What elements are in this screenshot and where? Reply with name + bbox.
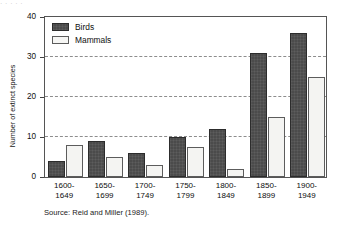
bar-group [128,17,164,177]
bar-birds [88,141,105,177]
x-tick-label: 1900-1949 [285,181,329,200]
x-tick-label: 1750-1799 [164,181,208,200]
bar-birds [48,161,65,177]
x-axis-labels: 1600-16491650-16991700-17491750-17991800… [44,181,327,203]
bar-mammals [66,145,83,177]
y-tick-label-10: 10 [14,132,36,141]
bar-group [250,17,286,177]
legend-swatch-birds [52,23,69,31]
x-tick-label: 1700-1749 [123,181,167,200]
bar-mammals [146,165,163,177]
bar-mammals [106,157,123,177]
legend-label-mammals: Mammals [75,35,111,45]
bar-birds [250,53,267,177]
x-tick-label: 1850-1899 [244,181,288,200]
chart-legend: Birds Mammals [52,21,111,47]
source-note: Source: Reid and Miller (1989). [44,208,149,217]
bar-group [290,17,326,177]
bar-group [209,17,245,177]
x-tick-label: 1600-1649 [42,181,86,200]
legend-item-birds: Birds [52,21,111,32]
bar-mammals [268,117,285,177]
bar-birds [290,33,307,177]
bar-mammals [187,147,204,177]
legend-label-birds: Birds [75,22,94,32]
chart-figure: · · · · · Number of extinct species 0102… [0,0,339,227]
x-tick-label: 1650-1699 [83,181,127,200]
bar-birds [169,137,186,177]
y-tick-label-20: 20 [14,92,36,101]
y-tick-label-40: 40 [14,12,36,21]
bar-mammals [308,77,325,177]
bar-birds [128,153,145,177]
x-tick-label: 1800-1849 [204,181,248,200]
cropped-text-fragment: · · · · · [0,0,339,7]
y-tick-label-0: 0 [14,172,36,181]
bar-mammals [227,169,244,177]
legend-item-mammals: Mammals [52,34,111,45]
bar-group [169,17,205,177]
y-tick-label-30: 30 [14,52,36,61]
legend-swatch-mammals [52,36,69,44]
bar-birds [209,129,226,177]
